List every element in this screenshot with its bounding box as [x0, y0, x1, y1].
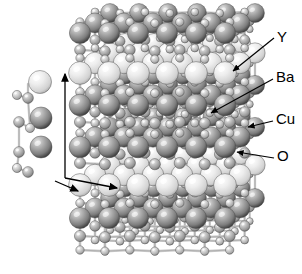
atom-cu — [174, 116, 185, 127]
atom-o — [225, 54, 233, 62]
atom-ba — [127, 94, 149, 116]
atom-ba — [185, 136, 207, 158]
atom-ba — [127, 207, 148, 228]
atom-cu — [14, 147, 25, 158]
atom-o — [206, 34, 213, 41]
atom-o — [200, 200, 209, 209]
atom-ba — [127, 136, 149, 158]
atom-cu — [224, 116, 235, 127]
atom-o — [191, 8, 199, 16]
atom-o — [166, 237, 174, 245]
atom-o — [12, 163, 21, 172]
figure-root: YBaCuO — [0, 0, 302, 274]
label-y: Y — [277, 28, 287, 45]
atom-cu — [124, 157, 135, 168]
atom-cu — [74, 116, 85, 127]
atom-o — [191, 236, 199, 244]
atom-o — [91, 236, 99, 244]
atom-cu — [99, 232, 110, 243]
atom-o — [141, 119, 149, 127]
atom-o — [175, 199, 184, 208]
atom-o — [191, 44, 199, 52]
atom-ba — [214, 22, 235, 43]
atom-cu — [224, 230, 235, 241]
atom-cu — [199, 159, 210, 170]
atom-ba — [98, 22, 119, 43]
atom-o — [12, 90, 21, 99]
main-crystal-lattice — [69, 4, 266, 256]
atom-o — [175, 129, 184, 138]
atom-o — [225, 199, 234, 208]
atom-y — [156, 174, 179, 197]
atom-y — [127, 62, 150, 85]
atom-y — [214, 62, 237, 85]
atom-o — [241, 189, 249, 197]
atom-cu — [240, 35, 250, 45]
atom-o — [91, 119, 99, 127]
atom-ba — [98, 136, 120, 158]
atom-o — [25, 123, 34, 132]
atom-y — [98, 62, 121, 85]
atom-ba — [185, 22, 206, 43]
atom-ba — [185, 94, 207, 116]
atom-cu — [99, 159, 110, 170]
label-o: O — [277, 147, 289, 164]
atom-o — [216, 120, 224, 128]
atom-y — [185, 174, 208, 197]
atom-ba — [156, 22, 177, 43]
atom-o — [76, 246, 84, 254]
atom-o — [141, 44, 149, 52]
atom-o — [150, 89, 159, 98]
atom-o — [166, 9, 174, 17]
atom-cu — [239, 107, 250, 118]
atom-o — [176, 18, 184, 26]
atom-o — [151, 200, 160, 209]
atom-ba — [127, 22, 148, 43]
atom-o — [175, 88, 184, 97]
atom-o — [101, 200, 110, 209]
atom-ba — [98, 94, 120, 116]
atom-o — [126, 54, 134, 62]
atom-cu — [224, 157, 235, 168]
atom-o — [91, 44, 99, 52]
atom-o — [225, 129, 234, 138]
atom-cu — [174, 157, 185, 168]
atom-ba — [69, 136, 91, 158]
atom-cu — [149, 118, 160, 129]
atom-o — [76, 54, 84, 62]
atom-cu — [90, 35, 100, 45]
atom-o — [241, 44, 249, 52]
atom-cu — [124, 230, 135, 241]
atom-o — [116, 237, 124, 245]
atom-cu — [23, 93, 34, 104]
atom-o — [176, 54, 184, 62]
atom-o — [201, 55, 209, 63]
atom-cu — [199, 118, 210, 129]
label-ba: Ba — [276, 68, 295, 85]
atom-o — [241, 236, 249, 244]
atom-y — [156, 62, 179, 85]
atom-o — [176, 246, 184, 254]
atom-ba — [185, 207, 206, 228]
crystal-structure-svg: YBaCuO — [0, 0, 302, 274]
atom-o — [151, 130, 160, 139]
atom-ba — [69, 22, 90, 43]
atom-ba — [156, 207, 177, 228]
atom-o — [125, 88, 134, 97]
atom-cu — [74, 230, 85, 241]
atom-o — [225, 246, 233, 254]
atom-o — [151, 55, 159, 63]
atom-o — [166, 120, 174, 128]
atom-y — [214, 174, 237, 197]
atom-o — [191, 119, 199, 127]
atom-o — [76, 199, 85, 208]
atom-o — [201, 247, 209, 255]
atom-o — [151, 19, 159, 27]
atom-y — [29, 71, 52, 94]
atom-cu — [149, 232, 160, 243]
atom-o — [206, 109, 214, 117]
atom-cu — [239, 221, 250, 232]
atom-ba — [69, 94, 91, 116]
atom-o — [241, 119, 249, 127]
atom-o — [126, 129, 135, 138]
